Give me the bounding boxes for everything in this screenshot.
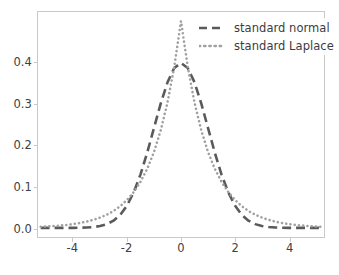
x-tick-label: 0	[177, 241, 184, 255]
x-tick-label: -2	[121, 241, 133, 255]
legend-item-standard-normal: standard normal	[199, 20, 334, 35]
legend-label-standard-laplace: standard Laplace	[234, 39, 334, 53]
y-tick-label: 0.3	[13, 97, 32, 111]
x-tick-label: 4	[286, 241, 293, 255]
legend-item-standard-laplace: standard Laplace	[199, 38, 334, 53]
curve-standard-normal	[41, 63, 322, 228]
legend-line-sample-dotted	[199, 41, 225, 51]
y-axis-tick-labels: 0.00.10.20.30.4	[0, 0, 32, 275]
x-tick-label: -4	[66, 241, 78, 255]
y-tick-label: 0.0	[13, 222, 32, 236]
y-tick-label: 0.4	[13, 55, 32, 69]
legend-line-sample-dashed	[199, 23, 225, 33]
legend: standard normal standard Laplace	[195, 18, 338, 55]
y-tick-label: 0.1	[13, 180, 32, 194]
y-tick-label: 0.2	[13, 138, 32, 152]
x-tick-label: 2	[232, 241, 239, 255]
figure-canvas: 0.00.10.20.30.4 -4-2024 standard normal …	[0, 0, 339, 275]
legend-label-standard-normal: standard normal	[234, 21, 330, 35]
